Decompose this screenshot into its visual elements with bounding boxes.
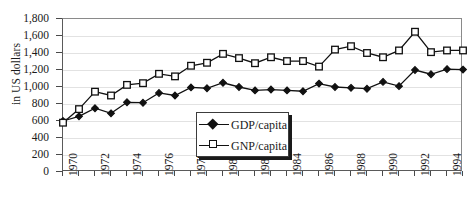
y-axis-tick-label: 1,600 <box>1 30 49 42</box>
data-point-marker-square <box>204 59 211 66</box>
x-axis-tick-label: 1974 <box>131 153 143 176</box>
data-point-marker-diamond <box>348 84 355 91</box>
data-point-marker-diamond <box>380 79 387 86</box>
data-point-marker-diamond <box>188 84 195 91</box>
data-point-marker-diamond <box>140 99 147 106</box>
data-point-marker-square <box>108 92 115 99</box>
data-point-marker-square <box>76 106 83 113</box>
data-point-marker-diamond <box>76 113 83 120</box>
y-axis-tick-label: 1,200 <box>1 64 49 76</box>
data-point-marker-square <box>268 54 275 61</box>
legend-label-gnp: GNP/capita <box>231 140 287 152</box>
legend-label-gdp: GDP/capita <box>231 119 287 131</box>
data-point-marker-square <box>220 51 227 58</box>
data-point-marker-square <box>92 88 99 95</box>
y-axis-tick-label: 1,000 <box>1 81 49 93</box>
data-point-marker-diamond <box>444 66 451 73</box>
x-axis-tick-label: 1990 <box>387 153 399 176</box>
data-point-marker-square <box>284 58 291 65</box>
x-axis-tick-labels: 1970197219741976197819801982198419861988… <box>62 176 462 218</box>
data-point-marker-square <box>188 62 195 69</box>
y-axis-tick-label: 200 <box>1 149 49 161</box>
data-point-marker-diamond <box>364 85 371 92</box>
data-point-marker-diamond <box>428 71 435 78</box>
data-point-marker-diamond <box>236 84 243 91</box>
data-point-marker-diamond <box>284 87 291 94</box>
x-axis-tick-label: 1988 <box>355 153 367 176</box>
data-point-marker-square <box>124 82 131 89</box>
y-axis-tick-label: 1,400 <box>1 47 49 59</box>
series-line-gnp <box>63 32 463 123</box>
y-axis-tick-label: 0 <box>1 166 49 178</box>
data-point-marker-square <box>156 71 163 78</box>
y-axis-tick-label: 1,800 <box>1 13 49 25</box>
x-axis-tick-label: 1970 <box>67 153 79 176</box>
data-point-marker-diamond <box>204 85 211 92</box>
data-point-marker-diamond <box>460 66 467 73</box>
x-axis-tick-label: 1986 <box>323 153 335 176</box>
data-point-marker-square <box>316 63 323 70</box>
data-point-marker-square <box>444 47 451 54</box>
y-axis-tick-label: 800 <box>1 98 49 110</box>
data-point-marker-square <box>428 49 435 56</box>
data-point-marker-diamond <box>316 80 323 87</box>
chart-legend: GDP/capita GNP/capita <box>196 112 289 157</box>
x-axis-tick-label: 1972 <box>99 153 111 176</box>
filled-diamond-marker-icon <box>197 116 231 134</box>
data-point-marker-diamond <box>300 88 307 95</box>
data-point-marker-square <box>380 54 387 61</box>
open-square-marker-icon <box>197 137 231 155</box>
x-axis-tick-label: 1992 <box>419 153 431 176</box>
chart-container: in US dollars 02004006008001,0001,2001,4… <box>0 0 475 218</box>
y-axis-tick-label: 600 <box>1 115 49 127</box>
data-point-marker-diamond <box>220 79 227 86</box>
x-axis-tick-label: 1976 <box>163 153 175 176</box>
legend-entry-gdp: GDP/capita <box>197 114 288 135</box>
data-point-marker-square <box>460 47 467 54</box>
data-point-marker-square <box>364 50 371 57</box>
data-point-marker-square <box>236 55 243 62</box>
data-point-marker-diamond <box>252 87 259 94</box>
data-point-marker-diamond <box>92 105 99 112</box>
data-point-marker-square <box>252 60 259 67</box>
data-point-marker-diamond <box>332 84 339 91</box>
data-point-marker-square <box>396 47 403 54</box>
legend-entry-gnp: GNP/capita <box>197 135 288 156</box>
data-point-marker-square <box>172 73 179 80</box>
data-point-marker-square <box>348 43 355 50</box>
data-point-marker-square <box>140 80 147 87</box>
data-point-marker-diamond <box>156 90 163 97</box>
y-axis-tick-label: 400 <box>1 132 49 144</box>
x-axis-tick-label: 1994 <box>451 153 463 176</box>
x-axis-tick-label: 1984 <box>291 153 303 176</box>
data-point-marker-square <box>332 46 339 53</box>
data-point-marker-square <box>300 58 307 65</box>
data-point-marker-diamond <box>172 92 179 99</box>
data-point-marker-square <box>60 119 67 126</box>
y-axis-tick-labels: 02004006008001,0001,2001,4001,6001,800 <box>0 0 57 218</box>
data-point-marker-square <box>412 28 419 35</box>
data-point-marker-diamond <box>268 86 275 93</box>
